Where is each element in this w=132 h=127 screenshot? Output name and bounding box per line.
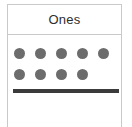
counter-dot-icon [14,69,25,80]
counter-dot-icon [77,69,88,80]
place-value-card: Ones [7,4,122,127]
counter-row [14,64,117,85]
counter-dot-icon [77,48,88,59]
counter-dot-icon [35,48,46,59]
place-value-body [8,36,121,127]
place-value-header-label: Ones [49,13,81,26]
counter-dot-icon [14,48,25,59]
counter-row [14,43,117,64]
counter-dot-icon [35,69,46,80]
counter-grid [14,43,117,85]
screen-root: Ones [0,0,132,127]
counter-dot-icon [98,48,109,59]
counter-dot-icon [56,48,67,59]
horizontal-rod-icon [13,89,119,93]
place-value-header: Ones [8,5,121,35]
counter-dot-icon [56,69,67,80]
